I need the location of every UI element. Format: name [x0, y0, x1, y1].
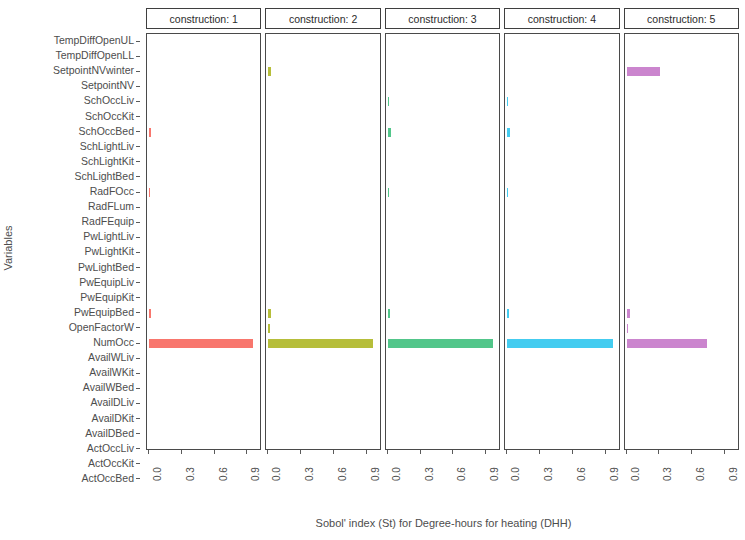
y-axis-tick-label: TempDiffOpenUL [54, 34, 134, 47]
y-axis-tick-mark [136, 358, 140, 359]
facet-panel-2: construction: 20.00.30.60.9 [264, 8, 383, 495]
y-axis-tick-label: AvailWBed [83, 381, 134, 394]
y-axis-tick-mark [136, 373, 140, 374]
y-axis-tick-label: PwEquipKit [80, 291, 134, 304]
y-axis-tick-label: AvailDBed [85, 427, 134, 440]
plot-area [385, 33, 500, 450]
y-axis-tick-label: PwEquipLiv [79, 276, 134, 289]
y-axis-tick-label: SchOccLiv [84, 94, 134, 107]
y-axis-tick-mark [136, 297, 140, 298]
y-axis-tick-mark [136, 403, 140, 404]
facet-strip-label: construction: 4 [504, 8, 619, 29]
x-axis-tick-mark [366, 450, 367, 454]
y-axis-tick-label: SchOccBed [79, 125, 134, 138]
y-axis-tick-label: PwLightKit [84, 245, 134, 258]
bar-PwEquipBed [627, 309, 630, 318]
x-axis-tick-mark [387, 450, 388, 454]
y-axis-tick-mark [136, 101, 140, 102]
y-axis-tick-label: OpenFactorW [69, 321, 134, 334]
y-axis-tick-label: SchLightLiv [80, 140, 134, 153]
x-axis-tick-label: 0.0 [510, 467, 521, 481]
x-axis-tick-label: 0.3 [543, 467, 554, 481]
y-axis-tick-label: PwLightBed [78, 261, 134, 274]
y-axis-tick-mark [136, 448, 140, 449]
y-axis-tick-mark [136, 418, 140, 419]
x-axis-tick-label: 0.9 [609, 467, 620, 481]
facet-panel-1: construction: 10.00.30.60.9 [145, 8, 264, 495]
y-axis-tick-mark [136, 343, 140, 344]
plot-area [265, 33, 380, 450]
x-axis-tick-label: 0.3 [185, 467, 196, 481]
y-axis-tick-label: SetpointNVwinter [53, 64, 134, 77]
y-axis-tick-label: AvailWLiv [88, 351, 134, 364]
x-axis-tick-label: 0.6 [218, 467, 229, 481]
facet-panel-3: construction: 30.00.30.60.9 [384, 8, 503, 495]
y-axis-tick-label: RadFOcc [90, 185, 134, 198]
x-axis-tick-mark [452, 450, 453, 454]
y-axis-tick-mark [136, 71, 140, 72]
y-axis-tick-label: ActOccLiv [87, 442, 134, 455]
y-axis-tick-mark [136, 131, 140, 132]
y-axis-tick-label: ActOccKit [88, 457, 134, 470]
y-axis-tick-label: SchLightBed [74, 170, 134, 183]
sobol-index-faceted-bar-chart: Variables TempDiffOpenULTempDiffOpenLLSe… [0, 0, 745, 540]
plot-area [624, 33, 739, 450]
x-axis-tick-labels: 0.00.30.60.9 [624, 455, 739, 495]
plot-area [146, 33, 261, 450]
y-axis-tick-mark [136, 312, 140, 313]
bar-PwEquipBed [388, 309, 390, 318]
x-axis-tick-labels: 0.00.30.60.9 [504, 455, 619, 495]
y-axis-tick-mark [136, 282, 140, 283]
x-axis-tick-mark [605, 450, 606, 454]
bar-NumOcc [388, 339, 494, 348]
y-axis-tick-label: PwLightLiv [83, 230, 134, 243]
y-axis-tick-mark [136, 207, 140, 208]
x-axis-tick-mark [333, 450, 334, 454]
y-axis-tick-mark [136, 252, 140, 253]
x-axis-tick-labels: 0.00.30.60.9 [385, 455, 500, 495]
x-axis-tick-label: 0.9 [489, 467, 500, 481]
y-axis-tick-mark [136, 478, 140, 479]
x-axis-tick-label: 0.3 [424, 467, 435, 481]
x-axis-tick-label: 0.6 [695, 467, 706, 481]
x-axis-tick-mark [572, 450, 573, 454]
bar-OpenFactorW [627, 324, 629, 333]
y-axis-tick-mark [136, 116, 140, 117]
facet-panel-5: construction: 50.00.30.60.9 [623, 8, 742, 495]
facet-strip-label: construction: 1 [146, 8, 261, 29]
y-axis-tick-mark [136, 327, 140, 328]
x-axis-tick-labels: 0.00.30.60.9 [265, 455, 380, 495]
x-axis-tick-label: 0.0 [152, 467, 163, 481]
bar-SchOccBed [388, 128, 391, 137]
x-axis-tick-label: 0.9 [370, 467, 381, 481]
y-axis-tick-mark [136, 146, 140, 147]
x-axis-tick-mark [214, 450, 215, 454]
y-axis-tick-label: AvailWKit [89, 366, 134, 379]
x-axis-tick-label: 0.6 [337, 467, 348, 481]
bar-NumOcc [268, 339, 372, 348]
x-axis-tick-mark [658, 450, 659, 454]
y-axis-tick-mark [136, 433, 140, 434]
bar-NumOcc [149, 339, 253, 348]
y-axis-tick-label: SetpointNV [81, 79, 134, 92]
y-axis-tick-mark [136, 463, 140, 464]
x-axis-tick-mark [691, 450, 692, 454]
plot-area [504, 33, 619, 450]
x-axis-tick-mark [506, 450, 507, 454]
bar-SchOccBed [149, 128, 151, 137]
facet-panel-row: construction: 10.00.30.60.9construction:… [145, 8, 742, 495]
y-axis-tick-label: PwEquipBed [74, 306, 134, 319]
x-axis-tick-label: 0.0 [271, 467, 282, 481]
bar-RadFOcc [507, 188, 508, 197]
x-axis-tick-mark [267, 450, 268, 454]
y-axis-tick-mark [136, 161, 140, 162]
y-axis-tick-mark [136, 237, 140, 238]
bar-RadFOcc [149, 188, 150, 197]
y-axis-tick-mark [136, 222, 140, 223]
x-axis-tick-mark [485, 450, 486, 454]
y-axis-tick-label: SchOccKit [85, 110, 134, 123]
y-axis-tick-label: NumOcc [93, 336, 134, 349]
bar-SchOccLiv [388, 97, 389, 106]
y-axis-tick-labels: TempDiffOpenULTempDiffOpenLLSetpointNVwi… [14, 32, 140, 487]
x-axis-tick-label: 0.3 [304, 467, 315, 481]
